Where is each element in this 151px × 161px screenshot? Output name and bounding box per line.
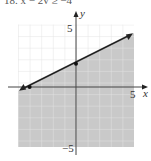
y-tick-5: 5 — [67, 22, 73, 34]
y-axis-label: y — [79, 7, 85, 19]
point-0-2 — [74, 62, 78, 66]
x-axis-label: x — [142, 87, 148, 99]
inequality-graph: y x 5 5 −5 — [0, 0, 151, 161]
point-neg4-0 — [28, 85, 32, 89]
y-axis-arrow-icon — [74, 11, 79, 17]
x-tick-5: 5 — [130, 88, 136, 100]
y-tick-neg5: −5 — [62, 142, 74, 154]
